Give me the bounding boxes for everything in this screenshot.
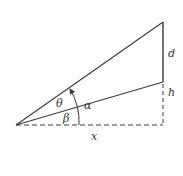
label-x: x [91,130,98,143]
label-alpha: α [84,99,92,112]
label-theta: θ [56,97,63,110]
label-h: h [168,86,175,99]
angle-diagram: θ α β d h x [0,0,183,176]
alpha-arc-arrow [70,89,79,125]
label-beta: β [62,112,69,125]
label-d: d [168,47,175,60]
